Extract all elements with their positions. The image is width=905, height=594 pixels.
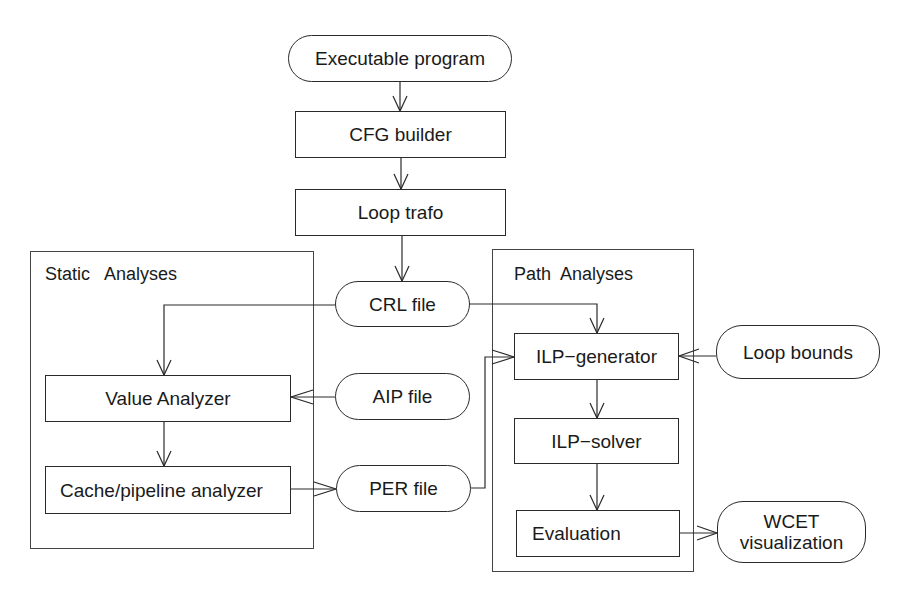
executable-program-label: Executable program xyxy=(315,48,485,69)
cache-pipeline-analyzer-label: Cache/pipeline analyzer xyxy=(60,480,263,501)
per-file-node: PER file xyxy=(336,465,471,512)
aip-file-label: AIP file xyxy=(373,386,433,407)
loop-bounds-node: Loop bounds xyxy=(716,325,880,379)
crl-file-node: CRL file xyxy=(335,281,470,327)
evaluation-node: Evaluation xyxy=(516,510,680,557)
per-file-label: PER file xyxy=(369,478,438,499)
executable-program-node: Executable program xyxy=(288,35,512,82)
value-analyzer-label: Value Analyzer xyxy=(105,388,230,409)
wcet-visualization-line1: WCET xyxy=(764,511,820,532)
wcet-visualization-node: WCET visualization xyxy=(717,501,866,563)
cfg-builder-node: CFG builder xyxy=(295,111,506,158)
crl-file-label: CRL file xyxy=(369,294,436,315)
ilp-solver-node: ILP−solver xyxy=(514,418,679,464)
evaluation-label: Evaluation xyxy=(532,523,621,544)
ilp-generator-node: ILP−generator xyxy=(514,333,679,380)
cache-pipeline-analyzer-node: Cache/pipeline analyzer xyxy=(45,466,291,514)
cfg-builder-label: CFG builder xyxy=(349,124,451,145)
ilp-solver-label: ILP−solver xyxy=(551,431,641,452)
ilp-generator-label: ILP−generator xyxy=(536,346,657,367)
loop-bounds-label: Loop bounds xyxy=(743,342,853,363)
aip-file-node: AIP file xyxy=(335,373,470,420)
loop-trafo-node: Loop trafo xyxy=(295,189,506,236)
value-analyzer-node: Value Analyzer xyxy=(45,375,291,422)
wcet-visualization-line2: visualization xyxy=(740,532,844,553)
loop-trafo-label: Loop trafo xyxy=(358,202,444,223)
